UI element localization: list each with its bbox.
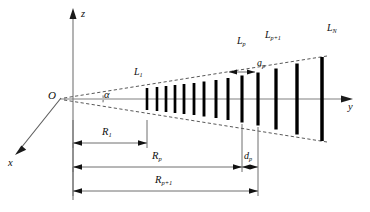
a-p-arrowhead-left bbox=[229, 69, 237, 74]
x-axis-label: x bbox=[8, 158, 13, 169]
dimension-label-Rp: Rp bbox=[152, 151, 162, 162]
element-label-L1: L1 bbox=[134, 67, 143, 77]
dp-arrowhead-left bbox=[242, 164, 250, 169]
element-label-Lp-sub: p bbox=[243, 40, 246, 47]
dimension-label-R1: R1 bbox=[102, 127, 112, 138]
element-label-Lp1-base: L bbox=[265, 29, 271, 40]
y-axis-label: y bbox=[348, 102, 353, 113]
element-label-Lp-base: L bbox=[237, 35, 243, 46]
element-width-label-ap-sub: p bbox=[262, 62, 265, 69]
dimension-label-Rp-sub: p bbox=[158, 155, 161, 162]
x-axis-line bbox=[21, 98, 61, 148]
a-p-arrowhead-right bbox=[247, 69, 255, 74]
element-label-Lp: Lp bbox=[237, 36, 246, 46]
angle-alpha-label: α bbox=[104, 90, 110, 101]
element-width-label-ap: ap bbox=[257, 58, 265, 68]
element-label-LN: LN bbox=[327, 23, 337, 33]
element-label-L1-base: L bbox=[134, 66, 140, 77]
figure-canvas: z y x O α L1 Lp Lp+1 LN ap dp R1 Rp Rp+1 bbox=[0, 0, 370, 212]
dimension-label-R1-sub: 1 bbox=[108, 131, 111, 138]
r1-arrowhead-left bbox=[73, 140, 82, 145]
rp-arrowhead-left bbox=[73, 164, 82, 169]
element-label-Lp1-sub: p+1 bbox=[271, 34, 281, 41]
r1-arrowhead-right bbox=[138, 140, 147, 145]
rp1-arrowhead-right bbox=[249, 188, 258, 193]
origin-label: O bbox=[48, 90, 56, 101]
element-label-LN-base: L bbox=[327, 22, 333, 33]
rp1-arrowhead-left bbox=[73, 188, 82, 193]
dimension-label-Rp1: Rp+1 bbox=[155, 175, 172, 186]
a-p-dimension-group bbox=[229, 69, 255, 74]
element-gap-label-dp: dp bbox=[244, 151, 252, 161]
dp-arrowhead-right bbox=[250, 164, 258, 169]
rp-dimension-group bbox=[73, 124, 242, 172]
element-label-LN-sub: N bbox=[333, 27, 337, 34]
element-label-Lp1: Lp+1 bbox=[265, 30, 281, 40]
rp-arrowhead-right bbox=[233, 164, 242, 169]
element-gap-label-dp-sub: p bbox=[249, 155, 252, 162]
x-axis-arrowhead bbox=[15, 145, 26, 155]
diagram-svg bbox=[0, 0, 370, 212]
z-axis-arrowhead bbox=[70, 8, 77, 19]
element-label-L1-sub: 1 bbox=[140, 71, 143, 78]
z-axis-label: z bbox=[81, 9, 85, 20]
dimension-label-Rp1-sub: p+1 bbox=[161, 179, 172, 186]
